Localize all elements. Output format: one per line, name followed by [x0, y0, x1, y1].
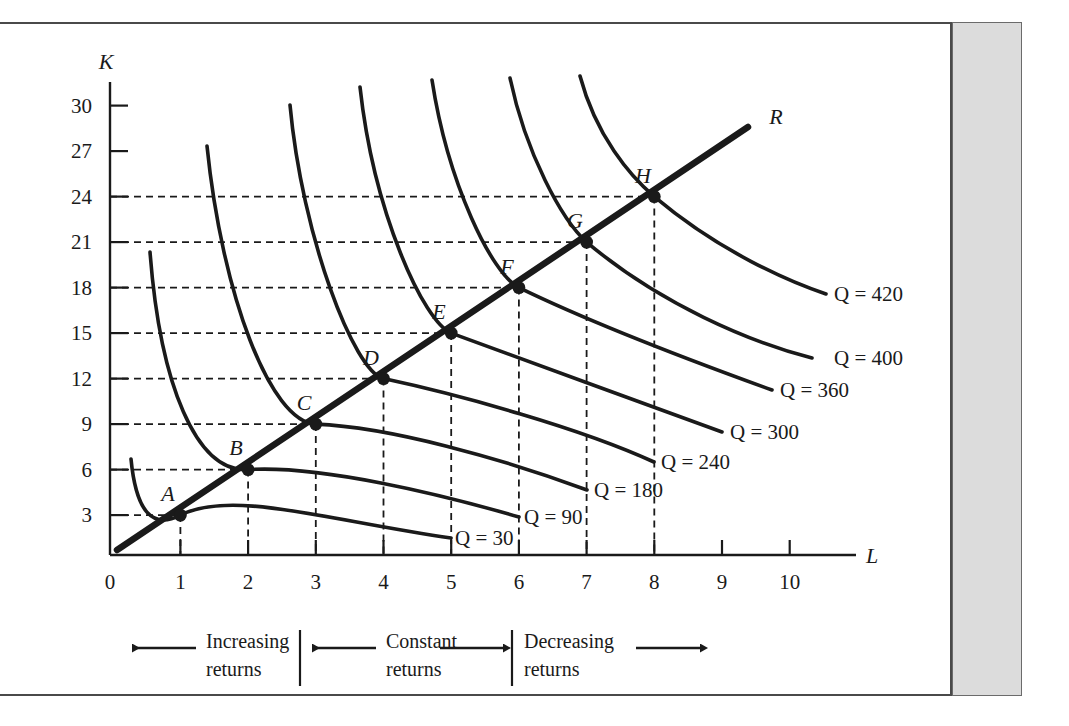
figure-stage: 3 6 9 12 15 18 21 24 27 30 0 1 2 3 4 5 6… [0, 0, 1069, 726]
y-tick-labels: 3 6 9 12 15 18 21 24 27 30 [71, 94, 93, 527]
y-tick-label-9: 9 [82, 412, 93, 436]
x-tick-label-2: 2 [243, 570, 254, 594]
point-marker-F [513, 281, 526, 294]
y-tick-group [110, 106, 128, 515]
point-marker-A [174, 509, 187, 522]
x-tick-label-9: 9 [717, 570, 728, 594]
point-label-H: H [634, 163, 652, 188]
isoquant-label-q300: Q = 300 [730, 420, 799, 444]
point-marker-D [377, 372, 390, 385]
point-marker-C [309, 418, 322, 431]
increasing-returns-line1: Increasing [206, 630, 289, 653]
constant-returns-line2: returns [386, 658, 442, 680]
isoquant-label-q30: Q = 30 [455, 526, 514, 550]
isoquant-plot: 3 6 9 12 15 18 21 24 27 30 0 1 2 3 4 5 6… [0, 24, 950, 696]
point-marker-E [445, 327, 458, 340]
isoquant-label-q360: Q = 360 [780, 378, 849, 402]
y-tick-label-27: 27 [71, 139, 92, 163]
axis-group [110, 82, 856, 555]
y-tick-label-24: 24 [71, 185, 93, 209]
point-label-B: B [229, 435, 242, 460]
x-origin-label: 0 [105, 570, 116, 594]
x-tick-label-10: 10 [779, 570, 800, 594]
isoquant-curve-q400 [510, 78, 812, 358]
isoquant-curve-q240 [290, 105, 654, 462]
x-tick-label-4: 4 [378, 570, 389, 594]
figure-frame: 3 6 9 12 15 18 21 24 27 30 0 1 2 3 4 5 6… [0, 22, 952, 696]
x-tick-label-1: 1 [175, 570, 186, 594]
x-axis-label: L [865, 543, 878, 568]
point-label-E: E [431, 299, 446, 324]
x-tick-label-6: 6 [514, 570, 525, 594]
x-tick-label-7: 7 [581, 570, 592, 594]
isoquant-label-q240: Q = 240 [661, 450, 730, 474]
ray-label-R: R [768, 104, 783, 129]
x-tick-label-5: 5 [446, 570, 457, 594]
decreasing-returns-line2: returns [524, 658, 580, 680]
x-tick-label-8: 8 [649, 570, 660, 594]
side-margin-panel [952, 22, 1022, 696]
point-label-G: G [567, 208, 583, 233]
isoquant-label-q90: Q = 90 [524, 505, 583, 529]
point-label-F: F [499, 254, 514, 279]
point-marker-G [580, 236, 593, 249]
point-label-A: A [159, 481, 175, 506]
isoquant-label-q180: Q = 180 [594, 478, 663, 502]
returns-annotation: Increasing returns Constant returns Decr… [132, 630, 700, 686]
x-tick-labels: 0 1 2 3 4 5 6 7 8 9 10 [105, 570, 800, 594]
isoquant-curve-q90 [150, 252, 519, 517]
y-tick-label-12: 12 [71, 367, 92, 391]
y-tick-label-3: 3 [82, 503, 93, 527]
isoquant-curve-q420 [580, 76, 826, 294]
y-tick-label-21: 21 [71, 230, 92, 254]
point-labels: A B C D E F G H [159, 163, 652, 506]
decreasing-returns-line1: Decreasing [524, 630, 614, 653]
point-markers [174, 190, 661, 521]
point-label-D: D [362, 345, 379, 370]
y-tick-label-6: 6 [82, 458, 93, 482]
point-label-C: C [297, 390, 312, 415]
y-tick-label-18: 18 [71, 276, 92, 300]
point-marker-B [242, 463, 255, 476]
y-axis-label: K [98, 49, 115, 74]
point-marker-H [648, 190, 661, 203]
isoquant-label-q420: Q = 420 [834, 282, 903, 306]
isoquant-curve-q180 [207, 146, 587, 490]
isoquant-label-q400: Q = 400 [834, 346, 903, 370]
y-tick-label-15: 15 [71, 321, 92, 345]
x-tick-label-3: 3 [311, 570, 322, 594]
increasing-returns-line2: returns [206, 658, 262, 680]
isoquant-curve-q300 [360, 87, 722, 432]
y-tick-label-30: 30 [71, 94, 92, 118]
